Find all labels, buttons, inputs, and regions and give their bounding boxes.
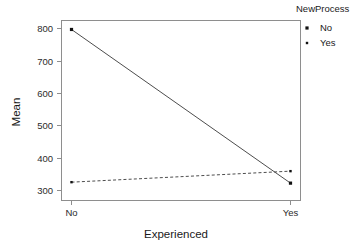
square-marker-small-icon bbox=[306, 42, 308, 44]
data-point-yes-no bbox=[70, 181, 72, 183]
square-marker-filled-icon bbox=[305, 26, 308, 29]
legend-label-yes: Yes bbox=[320, 37, 336, 48]
y-tick-label-600: 600 bbox=[37, 88, 53, 99]
chart-canvas: 800 700 600 500 400 300 No Yes Experienc… bbox=[0, 0, 362, 249]
interaction-plot-figure: 800 700 600 500 400 300 No Yes Experienc… bbox=[0, 0, 362, 249]
y-tick-label-800: 800 bbox=[37, 23, 53, 34]
y-tick-label-500: 500 bbox=[37, 120, 53, 131]
legend-label-no: No bbox=[320, 22, 332, 33]
y-axis-title: Mean bbox=[10, 98, 22, 127]
y-tick-label-400: 400 bbox=[37, 153, 53, 164]
data-point-yes-yes bbox=[289, 170, 291, 172]
y-tick-label-300: 300 bbox=[37, 185, 53, 196]
legend-title: NewProcess bbox=[296, 3, 350, 14]
data-point-no-yes bbox=[289, 182, 292, 185]
x-tick-label-no: No bbox=[65, 207, 77, 218]
x-tick-label-yes: Yes bbox=[283, 207, 299, 218]
chart-background bbox=[0, 0, 362, 249]
data-point-no-no bbox=[70, 28, 73, 31]
x-axis-title: Experienced bbox=[144, 228, 208, 240]
y-tick-label-700: 700 bbox=[37, 56, 53, 67]
